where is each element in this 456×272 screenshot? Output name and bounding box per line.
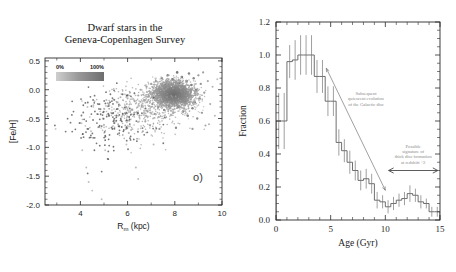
svg-text:0%: 0% [56,64,64,70]
svg-text:0.5: 0.5 [29,57,41,66]
svg-text:4: 4 [78,209,83,218]
density-colorbar: 0%100% [56,64,104,81]
left-x-axis-label: Rm (kpc) [117,221,150,232]
svg-text:10: 10 [218,209,227,218]
svg-text:0: 0 [274,224,279,234]
annotation-thick-disc-formation: Possiblesignature ofthick disc formation… [389,144,438,174]
svg-text:Subsequent: Subsequent [355,91,377,96]
svg-text:1.0: 1.0 [259,50,271,60]
right-panel: Red Giant stars in SAGA 0510150.00.20.40… [228,0,456,272]
svg-text:0.4: 0.4 [259,149,271,159]
red-giant-histogram-plot: 0510150.00.20.40.60.81.01.2Age (Gyr)Frac… [228,0,456,272]
svg-text:100%: 100% [90,64,104,70]
svg-text:0.6: 0.6 [259,116,271,126]
right-y-axis-label: Fraction [238,105,248,137]
right-plot-group: 0510150.00.20.40.60.81.01.2Age (Gyr)Frac… [238,17,445,249]
svg-text:-1.0: -1.0 [26,143,40,152]
svg-text:-2.0: -2.0 [26,201,40,210]
right-x-axis-label: Age (Gyr) [338,238,377,249]
svg-text:8: 8 [173,209,178,218]
svg-text:10: 10 [381,224,391,234]
svg-text:-1.5: -1.5 [26,172,40,181]
left-y-ticks: 0.50.0-0.5-1.0-1.5-2.0 [26,57,222,210]
svg-text:at redshift ~2: at redshift ~2 [401,160,426,165]
error-bars [279,35,438,217]
svg-text:15: 15 [436,224,446,234]
left-plot-group: 468100.50.0-0.5-1.0-1.5-2.0Rm (kpc)[Fe/H… [8,57,227,232]
svg-text:signature of: signature of [402,149,424,154]
svg-text:thick disc formation: thick disc formation [395,154,433,159]
svg-text:0.0: 0.0 [259,215,271,225]
svg-text:quiescent evolution: quiescent evolution [348,96,385,101]
left-panel-tag: o) [193,171,203,183]
svg-text:of the Galactic disc: of the Galactic disc [348,102,384,107]
svg-text:0.2: 0.2 [259,182,270,192]
annotation-quiescent-evolution: Subsequentquiescent evolutionof the Gala… [326,68,385,190]
svg-text:-0.5: -0.5 [26,115,40,124]
left-x-ticks: 46810 [57,58,227,218]
svg-text:5: 5 [328,224,333,234]
svg-text:0.0: 0.0 [29,86,41,95]
two-panel-figure: Dwarf stars in the Geneva-Copenhagen Sur… [0,0,456,272]
svg-text:0.8: 0.8 [259,83,271,93]
svg-text:1.2: 1.2 [259,17,270,27]
dwarf-stars-scatter-plot: 468100.50.0-0.5-1.0-1.5-2.0Rm (kpc)[Fe/H… [0,0,228,272]
left-panel: Dwarf stars in the Geneva-Copenhagen Sur… [0,0,228,272]
left-y-axis-label: [Fe/H] [8,120,18,143]
svg-text:6: 6 [125,209,130,218]
svg-text:Possible: Possible [406,144,421,149]
scatter-density-cloud [47,74,207,174]
